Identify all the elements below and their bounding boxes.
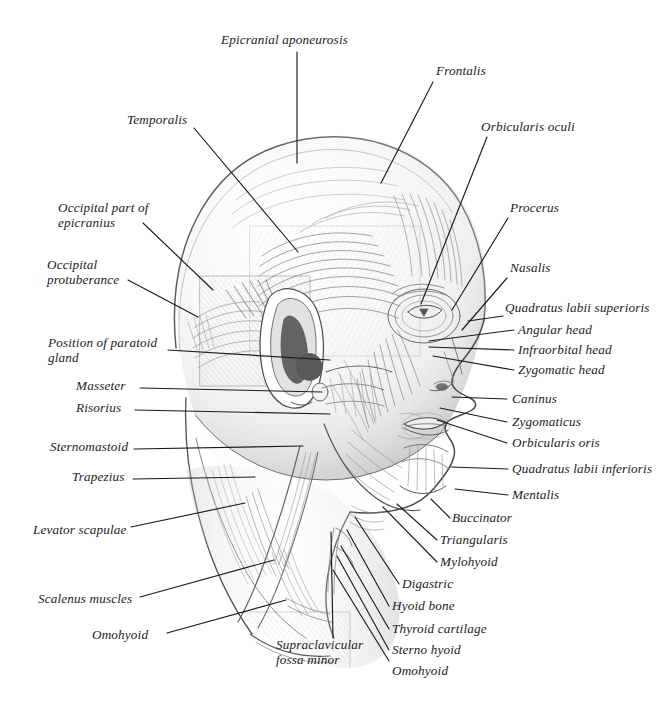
label-sternomastoid: Sternomastoid xyxy=(50,440,128,455)
label-nasalis: Nasalis xyxy=(510,261,551,276)
label-supraclavicular-fossa-minor: Supraclavicular fossa minor xyxy=(276,638,363,668)
label-risorius: Risorius xyxy=(76,401,121,416)
label-sterno-hyoid: Sterno hyoid xyxy=(392,643,461,658)
label-zygomatic-head: Zygomatic head xyxy=(518,363,605,378)
label-frontalis: Frontalis xyxy=(436,64,486,79)
label-mentalis: Mentalis xyxy=(512,488,559,503)
label-quadratus-labii-superioris: Quadratus labii superioris xyxy=(505,301,650,316)
label-quadratus-labii-inferioris: Quadratus labii inferioris xyxy=(512,462,652,477)
label-scalenus-muscles: Scalenus muscles xyxy=(38,592,132,607)
label-temporalis: Temporalis xyxy=(127,113,187,128)
label-triangularis: Triangularis xyxy=(440,533,508,548)
label-thyroid-cartilage: Thyroid cartilage xyxy=(392,622,487,637)
label-buccinator: Buccinator xyxy=(452,511,512,526)
label-procerus: Procerus xyxy=(510,201,559,216)
anatomical-figure: Epicranial aponeurosisFrontalisTemporali… xyxy=(0,0,666,712)
label-orbicularis-oris: Orbicularis oris xyxy=(512,436,600,451)
label-hyoid-bone: Hyoid bone xyxy=(392,599,455,614)
leader-line-quadratus-labii-inferioris xyxy=(451,467,508,469)
label-omohyoid-lower: Omohyoid xyxy=(392,664,448,679)
label-trapezius: Trapezius xyxy=(72,470,125,485)
leader-line-triangularis xyxy=(397,504,437,540)
drawing-strokes xyxy=(150,120,510,690)
label-mylohyoid: Mylohyoid xyxy=(440,555,498,570)
label-omohyoid-upper: Omohyoid xyxy=(92,628,148,643)
leader-line-mentalis xyxy=(455,489,508,495)
label-epicranial-aponeurosis: Epicranial aponeurosis xyxy=(221,33,348,48)
label-orbicularis-oculi: Orbicularis oculi xyxy=(481,120,575,135)
label-infraorbital-head: Infraorbital head xyxy=(518,343,612,358)
label-angular-head: Angular head xyxy=(518,323,592,338)
label-levator-scapulae: Levator scapulae xyxy=(33,523,127,538)
label-occipital-part-of-epicranius: Occipital part of epicranius xyxy=(58,201,148,231)
leader-line-buccinator xyxy=(431,499,450,518)
label-digastric: Digastric xyxy=(402,577,453,592)
label-caninus: Caninus xyxy=(512,392,557,407)
label-occipital-protuberance: Occipital protuberance xyxy=(47,258,119,288)
label-masseter: Masseter xyxy=(76,379,126,394)
label-zygomaticus: Zygomaticus xyxy=(512,415,581,430)
label-position-of-paratoid-gland: Position of paratoid gland xyxy=(48,336,157,366)
